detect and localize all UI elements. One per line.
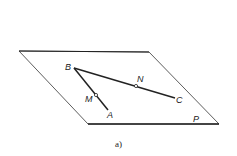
label-plane-p: P (193, 114, 199, 124)
label-n: N (137, 74, 144, 84)
label-c: C (176, 95, 183, 105)
label-a: A (106, 110, 113, 120)
figure-caption: a) (115, 139, 122, 149)
geometry-figure: B A C M N P a) (0, 0, 237, 156)
point-n (134, 84, 137, 87)
label-m: M (85, 94, 93, 104)
point-m (94, 93, 97, 96)
plane-top-edge (19, 51, 149, 52)
label-b: B (65, 62, 71, 72)
plane-p (19, 51, 219, 124)
